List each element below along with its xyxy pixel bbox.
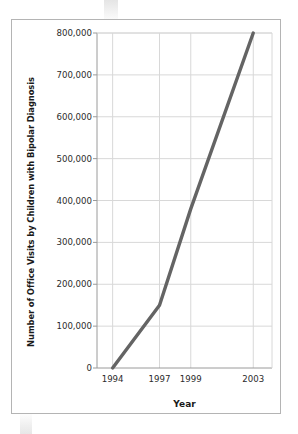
line-chart: Number of Office Visits by Children with… (0, 0, 298, 434)
x-axis-title: Year (97, 399, 272, 409)
x-tick-label: 1999 (171, 374, 211, 384)
x-tick-label: 1994 (93, 374, 133, 384)
horizontal-gridlines (93, 33, 272, 368)
plot-canvas (0, 0, 298, 434)
x-tick-label: 2003 (233, 374, 273, 384)
